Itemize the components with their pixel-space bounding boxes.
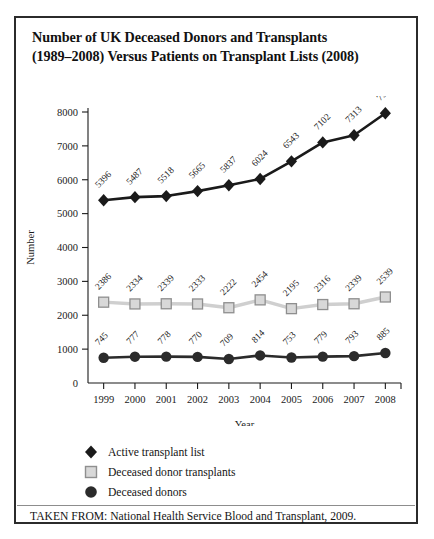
diamond-glyph <box>85 446 97 459</box>
data-point-label: 7313 <box>343 104 364 125</box>
data-point-label: 778 <box>156 329 173 346</box>
data-point-diamond <box>223 179 234 191</box>
data-point-label: 5518 <box>156 165 177 186</box>
data-point-circle <box>130 351 140 361</box>
data-point-diamond <box>98 194 109 206</box>
x-axis-tick-label: 2003 <box>218 394 239 405</box>
square-marker-icon <box>82 463 100 481</box>
data-point-square <box>193 299 203 309</box>
data-point-label: 5665 <box>187 160 208 181</box>
legend-item-label: Deceased donor transplants <box>108 466 236 479</box>
figure-title-line-1: Number of UK Deceased Donors and Transpl… <box>32 28 404 47</box>
x-axis-tick-label: 2005 <box>281 394 302 405</box>
series-line <box>104 113 386 200</box>
legend-item: Deceased donors <box>82 482 382 502</box>
data-point-label: 6024 <box>249 148 270 169</box>
data-point-diamond <box>286 155 297 167</box>
data-point-circle <box>161 351 171 361</box>
data-point-label: 745 <box>93 330 110 347</box>
data-point-label: 793 <box>343 328 360 345</box>
y-axis-tick-label: 2000 <box>57 310 78 321</box>
data-point-square <box>349 299 359 309</box>
chart-legend: Active transplant listDeceased donor tra… <box>82 442 382 502</box>
data-point-label: 2454 <box>249 269 270 290</box>
diamond-marker-icon <box>82 443 100 461</box>
data-point-square <box>130 299 140 309</box>
data-point-square <box>255 295 265 305</box>
data-point-label: 5487 <box>124 166 145 187</box>
data-point-circle <box>286 352 296 362</box>
data-point-label: 7102 <box>312 111 333 132</box>
x-axis-tick-label: 2007 <box>344 394 365 405</box>
legend-item: Active transplant list <box>82 442 382 462</box>
data-point-square <box>161 299 171 309</box>
data-point-circle <box>255 350 265 360</box>
series-line <box>104 353 386 359</box>
y-axis-tick-label: 7000 <box>57 141 78 152</box>
data-point-label: 2333 <box>187 273 208 294</box>
figure-frame: Number of UK Deceased Donors and Transpl… <box>14 16 418 524</box>
data-point-label: 814 <box>249 328 266 345</box>
y-axis-tick-label: 4000 <box>57 242 78 253</box>
legend-item: Deceased donor transplants <box>82 462 382 482</box>
data-point-label: 5837 <box>218 154 239 175</box>
x-axis-tick-label: 1999 <box>93 394 114 405</box>
circle-marker-icon <box>82 483 100 501</box>
series-diamond: 5396548755185665583760246543710273137963 <box>93 96 395 206</box>
y-axis-tick-label: 0 <box>73 378 78 389</box>
data-point-label: 770 <box>187 329 204 346</box>
data-point-square <box>99 297 109 307</box>
square-glyph <box>86 467 97 478</box>
series-line <box>104 297 386 309</box>
data-point-label: 2539 <box>375 266 396 287</box>
data-point-label: 777 <box>124 329 141 346</box>
data-point-diamond <box>129 191 140 203</box>
y-axis-tick-label: 1000 <box>57 344 78 355</box>
data-point-square <box>224 303 234 313</box>
y-axis-tick-label: 8000 <box>57 107 78 118</box>
x-axis-tick-label: 2002 <box>187 394 208 405</box>
source-note: TAKEN FROM: National Health Service Bloo… <box>30 510 410 523</box>
data-point-diamond <box>161 190 172 202</box>
data-point-circle <box>349 351 359 361</box>
data-point-square <box>380 292 390 302</box>
data-point-circle <box>98 353 108 363</box>
data-point-diamond <box>192 185 203 197</box>
data-point-circle <box>192 352 202 362</box>
y-axis-tick-label: 3000 <box>57 276 78 287</box>
data-point-label: 2339 <box>156 273 177 294</box>
data-point-label: 2334 <box>124 273 145 294</box>
x-axis-title: Year <box>235 419 255 426</box>
data-point-label: 2386 <box>93 271 114 292</box>
y-axis-title: Number <box>25 230 36 265</box>
data-point-label: 779 <box>312 329 329 346</box>
data-point-diamond <box>317 136 328 148</box>
circle-glyph <box>85 486 97 498</box>
data-point-circle <box>318 351 328 361</box>
legend-item-label: Active transplant list <box>108 446 205 459</box>
figure-title-line-2: (1989–2008) Versus Patients on Transplan… <box>32 47 404 66</box>
data-point-label: 7963 <box>375 96 396 103</box>
x-axis-tick-label: 2001 <box>156 394 177 405</box>
line-chart-svg: 0100020003000400050006000700080001999200… <box>16 96 416 426</box>
data-point-diamond <box>255 173 266 185</box>
x-axis-tick-label: 2006 <box>312 394 333 405</box>
data-point-label: 753 <box>281 330 298 347</box>
data-point-label: 709 <box>218 331 235 348</box>
data-point-label: 2316 <box>312 273 333 294</box>
data-point-label: 6543 <box>281 130 302 151</box>
data-point-circle <box>380 348 390 358</box>
data-point-square <box>318 300 328 310</box>
y-axis-tick-label: 6000 <box>57 175 78 186</box>
data-point-label: 2339 <box>343 273 364 294</box>
figure-title: Number of UK Deceased Donors and Transpl… <box>32 28 404 66</box>
data-point-label: 5396 <box>93 169 114 190</box>
x-axis-tick-label: 2004 <box>250 394 272 405</box>
data-point-label: 2195 <box>281 278 302 299</box>
data-point-label: 2222 <box>218 277 239 298</box>
data-point-square <box>286 304 296 314</box>
chart-plot-area: 0100020003000400050006000700080001999200… <box>16 96 416 426</box>
source-divider <box>17 505 415 506</box>
legend-item-label: Deceased donors <box>108 486 187 499</box>
series-square: 2386233423392333222224542195231623392539 <box>93 266 395 314</box>
